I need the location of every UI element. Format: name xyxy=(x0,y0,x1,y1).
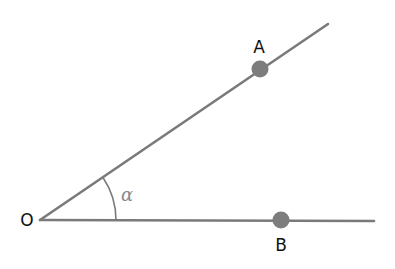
angle-arc xyxy=(103,177,116,220)
ray-oa xyxy=(40,24,328,220)
point-b xyxy=(273,212,290,229)
angle-label-alpha: α xyxy=(121,184,133,205)
label-b: B xyxy=(275,235,287,255)
label-o: O xyxy=(20,210,33,230)
point-a xyxy=(252,61,269,78)
angle-diagram: O A B α xyxy=(0,0,395,269)
label-a: A xyxy=(253,37,265,57)
ray-ob xyxy=(40,220,374,221)
